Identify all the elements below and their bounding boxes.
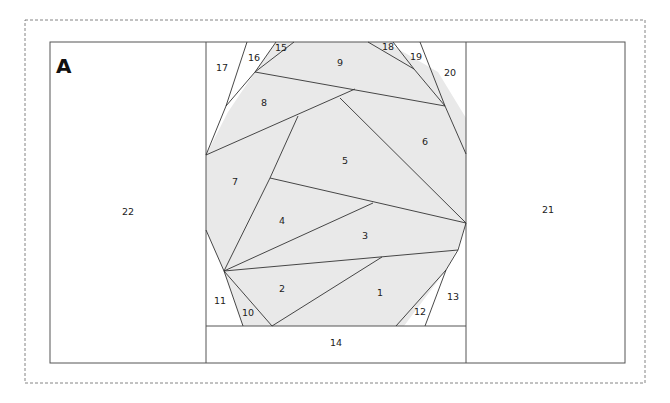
piece-label-16: 16: [248, 52, 260, 63]
piece-label-3: 3: [362, 230, 368, 241]
piece-label-2: 2: [279, 283, 285, 294]
piece-label-8: 8: [261, 97, 267, 108]
piece-label-11: 11: [214, 295, 226, 306]
piece-label-13: 13: [447, 291, 459, 302]
section-label: A: [56, 54, 72, 78]
piece-label-22: 22: [122, 206, 134, 217]
piece-label-5: 5: [342, 155, 348, 166]
piece-label-12: 12: [414, 306, 426, 317]
piece-label-4: 4: [279, 215, 285, 226]
piece-label-21: 21: [542, 204, 554, 215]
piece-label-6: 6: [422, 136, 428, 147]
foundation-paper-piecing-pattern: A 1 2 3 4 5 6 7 8 9 10 11 12 13 14 15 16…: [0, 0, 670, 403]
piece-label-18: 18: [382, 41, 394, 52]
piece-label-19: 19: [410, 51, 422, 62]
piece-label-10: 10: [242, 307, 254, 318]
piece-label-20: 20: [444, 67, 456, 78]
piece-label-7: 7: [232, 176, 238, 187]
piece-label-9: 9: [337, 57, 343, 68]
piece-label-15: 15: [275, 42, 287, 53]
piece-label-14: 14: [330, 337, 342, 348]
piece-label-1: 1: [377, 287, 383, 298]
piece-label-17: 17: [216, 62, 228, 73]
